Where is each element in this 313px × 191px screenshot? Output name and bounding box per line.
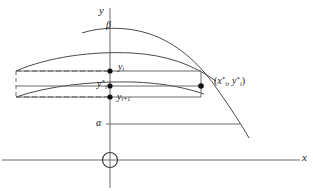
x-axis-label: x (302, 152, 307, 163)
beta-label: β (106, 20, 111, 30)
dot-sample-point (198, 83, 204, 89)
dot-y-i-plus-1 (107, 94, 112, 99)
y-i-label: yi (118, 62, 124, 73)
y-i-plus-1-label: yi+1 (117, 92, 130, 103)
upper-boundary-curve (16, 53, 216, 81)
dot-y-i-star (107, 83, 112, 88)
paren-close: ) (242, 75, 245, 86)
y-i-star-subscript: i (105, 83, 107, 90)
diagram-svg (0, 0, 313, 191)
y-i-star-label: y*i (97, 79, 107, 90)
figure-canvas: y x β α yi y*i yi+1 (x*i, y*i) (0, 0, 313, 191)
y-axis-label: y (99, 5, 104, 16)
y-i-plus-1-subscript: i+1 (121, 95, 130, 102)
alpha-label: α (96, 118, 101, 128)
dot-y-i (107, 68, 112, 73)
sample-point-label: (x*i, y*i) (214, 76, 245, 87)
y-i-subscript: i (122, 65, 124, 72)
